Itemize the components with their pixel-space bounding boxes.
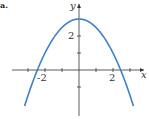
y-axis-arrow-icon: [77, 4, 81, 8]
y-axis-label: y: [70, 0, 76, 11]
x-tick-label-neg2: -2: [37, 72, 47, 83]
axes: [12, 4, 144, 116]
y-tick-label-2: 2: [68, 30, 74, 41]
x-tick-label-2: 2: [109, 72, 115, 83]
parabola-chart: [0, 0, 149, 119]
x-axis-label: x: [141, 69, 147, 80]
